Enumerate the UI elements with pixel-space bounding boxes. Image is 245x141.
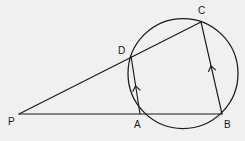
vertex-label-d: D [118,45,125,56]
secant-line-pdc [19,22,201,114]
vertex-label-a: A [134,119,141,130]
chord-line-da [131,56,140,114]
vertex-label-c: C [198,5,205,16]
vertex-label-p: P [8,116,15,127]
geometry-canvas: P A B C D [0,0,245,141]
geometry-figure: P A B C D [0,0,245,141]
vertex-label-b: B [224,119,231,130]
chord-line-cb [201,22,222,114]
